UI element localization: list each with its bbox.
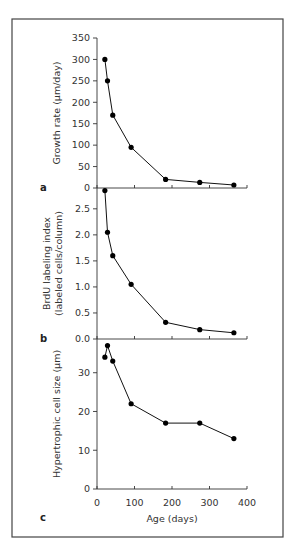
data-point	[105, 343, 110, 348]
data-point	[163, 177, 168, 182]
data-point	[110, 113, 115, 118]
y-tick-label: 2.0	[75, 229, 90, 240]
x-tick-label: 100	[125, 497, 143, 508]
x-tick-label: 200	[163, 497, 181, 508]
y-axis-title-b: BrdU labeling index	[41, 217, 52, 310]
y-tick-label: 150	[72, 118, 90, 129]
y-axis-title-c: Hypertrophic cell size (µm)	[51, 350, 62, 478]
data-point	[197, 327, 202, 332]
data-point	[163, 421, 168, 426]
data-point	[163, 320, 168, 325]
panel-letter-a: a	[40, 182, 47, 193]
data-point	[197, 421, 202, 426]
series-line-c	[105, 346, 234, 439]
y-tick-label: 0.5	[75, 307, 90, 318]
y-tick-label: 50	[78, 161, 90, 172]
y-axis-title-a: Growth rate (µm/day)	[51, 61, 62, 164]
y-tick-label: 20	[78, 406, 90, 417]
figure: 050100150200250300350Growth rate (µm/day…	[0, 0, 297, 555]
panel-b: 0.00.51.01.52.02.5BrdU labeling index(la…	[40, 188, 247, 344]
series-line-b	[105, 191, 234, 333]
y-axis-title-b: (labeled cells/column)	[53, 211, 64, 316]
y-tick-label: 300	[72, 54, 90, 65]
y-tick-label: 2.5	[75, 203, 90, 214]
y-tick-label: 0.0	[75, 333, 90, 344]
panels: 050100150200250300350Growth rate (µm/day…	[40, 32, 256, 524]
data-point	[231, 436, 236, 441]
y-tick-label: 250	[72, 75, 90, 86]
y-tick-label: 1.0	[75, 281, 90, 292]
panel-letter-c: c	[40, 512, 46, 523]
x-tick-label: 300	[200, 497, 218, 508]
data-point	[102, 355, 107, 360]
y-tick-label: 30	[78, 367, 90, 378]
x-tick-label: 0	[94, 497, 100, 508]
y-tick-label: 10	[78, 445, 90, 456]
data-point	[105, 230, 110, 235]
data-point	[110, 358, 115, 363]
y-tick-label: 1.5	[75, 255, 90, 266]
y-tick-label: 350	[72, 32, 90, 43]
data-point	[231, 182, 236, 187]
y-tick-label: 0	[84, 182, 90, 193]
data-point	[129, 401, 134, 406]
data-point	[129, 145, 134, 150]
data-point	[231, 330, 236, 335]
panel-letter-b: b	[40, 333, 47, 344]
data-point	[105, 78, 110, 83]
series-line-a	[105, 59, 234, 185]
y-tick-label: 100	[72, 139, 90, 150]
x-axis-title: Age (days)	[146, 513, 197, 524]
data-point	[129, 282, 134, 287]
y-tick-label: 200	[72, 97, 90, 108]
data-point	[102, 57, 107, 62]
panel-c: 0102030Hypertrophic cell size (µm)c	[40, 339, 247, 523]
data-point	[110, 253, 115, 258]
data-point	[102, 188, 107, 193]
data-point	[197, 180, 202, 185]
panel-a: 050100150200250300350Growth rate (µm/day…	[40, 32, 247, 193]
x-tick-label: 400	[238, 497, 256, 508]
y-tick-label: 0	[84, 483, 90, 494]
